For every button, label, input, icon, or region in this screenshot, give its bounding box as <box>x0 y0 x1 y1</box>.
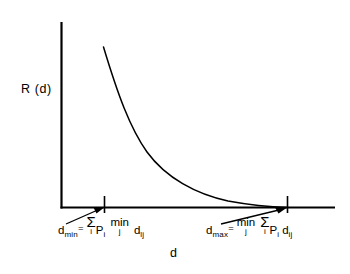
dmin-operator-index: j <box>110 228 129 236</box>
dmax-equals: = <box>228 222 234 233</box>
dmin-variable-subscript: min <box>64 230 78 239</box>
plot-area <box>0 0 350 274</box>
y-axis-label: R (d) <box>21 82 52 96</box>
dmax-variable-subscript: max <box>212 230 228 239</box>
dmax-operator-index: j <box>237 228 256 236</box>
x-axis-label: d <box>170 246 177 260</box>
rate-distortion-curve <box>104 47 289 207</box>
dmax-summation: Σi <box>260 215 269 236</box>
dmax-probability-subscript: i <box>277 230 279 239</box>
d-max-annotation: dmax=minjΣiPidij <box>206 215 293 239</box>
dmax-minimization: minj <box>237 217 256 236</box>
d-min-annotation: dmin=ΣiPiminjdlj <box>58 215 144 239</box>
dmin-summation: Σi <box>86 215 95 236</box>
rate-distortion-figure: R (d) d dmin=ΣiPiminjdlj dmax=minjΣiPidi… <box>0 0 350 274</box>
dmin-minimization: minj <box>110 217 129 236</box>
dmin-distortion-subscript: lj <box>140 230 144 239</box>
dmin-equals: = <box>78 222 84 233</box>
dmax-distortion-subscript: ij <box>289 230 293 239</box>
dmin-probability-subscript: i <box>103 230 105 239</box>
